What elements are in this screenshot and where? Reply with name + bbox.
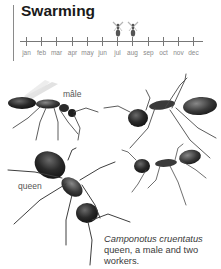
caption-text: queen, a male and two workers.	[104, 245, 198, 266]
worker-ant-icon	[122, 144, 206, 205]
male-label: mâle	[63, 89, 81, 99]
queen-label: queen	[18, 181, 42, 191]
figure-caption: Camponotus cruentatus queen, a male and …	[104, 234, 219, 267]
ant-illustrations	[0, 0, 221, 269]
male-ant-icon	[8, 80, 98, 140]
worker-ant-icon	[104, 74, 218, 158]
species-name: Camponotus cruentatus	[104, 234, 203, 244]
